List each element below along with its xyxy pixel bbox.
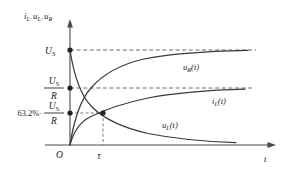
markers [67,47,105,115]
curve-annotation-u-l: uL(t) [162,120,178,131]
marker-us-over-r [67,85,72,90]
y-axis-label-u2-sub: R [48,15,53,22]
svg-text:US: US [49,76,60,87]
y-tick-label-pct-us-over-r: 63.2%· US R [18,101,64,126]
marker-tau-point [100,110,105,115]
svg-text:iL(t): iL(t) [212,96,226,107]
y-tick-pct-denominator: R [50,116,57,126]
svg-text:US: US [49,101,60,112]
y-tick-usr-denominator: R [50,91,57,101]
marker-pct-us-over-r [67,110,72,115]
transient-response-figure: iL, uL, uR t O τ US US R 63.2%· US R uR(… [0,0,288,182]
annotation-u-l-arg: (t) [170,120,178,130]
reference-lines [70,50,256,145]
y-axis-arrowhead [67,19,73,28]
y-tick-label-us-over-r: US R [44,76,64,101]
y-axis-label: iL, uL, uR [24,11,53,22]
svg-text:uR(t): uR(t) [183,62,199,73]
x-axis-arrowhead [268,142,277,148]
y-tick-us-subscript: S [52,50,56,57]
y-tick-usr-numerator-sub: S [56,80,60,87]
svg-text:uL(t): uL(t) [162,120,178,131]
x-tick-label-tau: τ [97,151,101,161]
curve-annotation-i-l: iL(t) [212,96,226,107]
y-tick-label-us: US [45,46,56,57]
marker-us [67,47,72,52]
y-tick-pct-numerator-sub: S [56,105,60,112]
svg-text:US: US [45,46,56,57]
curve-annotation-u-r: uR(t) [183,62,199,73]
x-axis-label: t [264,154,267,164]
y-tick-pct-prefix: 63.2%· [18,109,42,118]
svg-text:iL, uL, uR: iL, uL, uR [24,11,53,22]
annotation-i-l-arg: (t) [218,96,226,106]
axis-group [45,19,276,148]
annotation-u-r-arg: (t) [191,62,199,72]
origin-label: O [56,150,63,160]
